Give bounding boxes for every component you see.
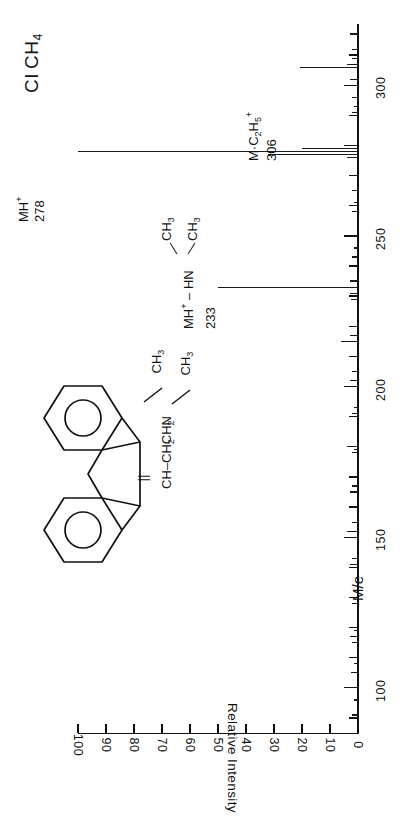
annotation-306-sub-a: 2 (253, 131, 263, 136)
mz-tick-300 (344, 85, 358, 86)
peak-mz-265 (352, 190, 358, 191)
peak-mz-291 (352, 112, 358, 113)
intensity-tick-label-60: 60 (183, 730, 197, 760)
mz-minor-tick-210 (349, 356, 358, 357)
aromatic-circle-bottom (65, 512, 101, 548)
peak-mz-96 (354, 699, 358, 700)
annotation-233-amine: HN (181, 270, 196, 289)
annotation-233-dash: – (181, 293, 196, 300)
peak-mz-117 (350, 636, 358, 637)
structure-chain-ch: CH (159, 470, 174, 489)
n-methyl-bond-a (144, 388, 162, 402)
peak-mz-270 (351, 175, 358, 176)
mz-tick-label-150: 150 (374, 517, 388, 551)
intensity-tick-label-40: 40 (239, 730, 253, 760)
intensity-tick-label-50: 50 (211, 730, 225, 760)
peak-mz-141 (350, 564, 358, 565)
structure-methyl-b-sub: 3 (185, 352, 195, 357)
peak-mz-191 (352, 413, 358, 414)
mz-tick-label-100: 100 (374, 668, 388, 702)
peak-mz-193 (354, 407, 358, 408)
peak-mz-128 (352, 603, 358, 604)
peak-mz-152 (347, 531, 358, 532)
aromatic-circle-top (65, 400, 101, 436)
peak-mz-108 (354, 663, 358, 664)
structure-methyl-a: CH3 (149, 334, 164, 374)
mz-minor-tick-310 (349, 54, 358, 55)
structure-chain-ch2-a: –CH (159, 444, 174, 470)
peak-mz-229 (351, 299, 358, 300)
intensity-tick-label-70: 70 (155, 730, 169, 760)
intensity-tick-label-90: 90 (99, 730, 113, 760)
peak-mz-130 (354, 597, 358, 598)
peak-mz-202 (350, 380, 358, 381)
intensity-tick-label-80: 80 (127, 730, 141, 760)
annotation-233-methyl-b: CH (185, 222, 200, 241)
mz-minor-tick-190 (349, 416, 358, 417)
annotation-mh-278: MH+ 278 (14, 142, 78, 222)
peak-mz-119 (354, 630, 358, 631)
benzene-ring-bottom (44, 498, 122, 562)
annotation-278-charge: + (14, 197, 24, 202)
annotation-306-charge: + (244, 112, 254, 117)
peak-mz-296 (352, 97, 358, 98)
peak-mz-258 (352, 211, 358, 212)
ring-fusion-bottom (102, 498, 140, 506)
mz-tick-label-250: 250 (374, 216, 388, 250)
intensity-tick-label-20: 20 (295, 730, 309, 760)
peak-mz-217 (350, 335, 358, 336)
annotation-306-sub-b: 5 (253, 117, 263, 122)
peak-mz-215 (341, 341, 358, 342)
annotation-leader-306 (300, 67, 345, 68)
benzene-ring-top (44, 386, 122, 450)
peak-mz-231 (350, 293, 358, 294)
mz-minor-tick-170 (349, 476, 358, 477)
mz-minor-tick-120 (349, 627, 358, 628)
intensity-tick-label-30: 30 (267, 730, 281, 760)
peak-mz-91 (352, 714, 358, 715)
annotation-233-bond-b (188, 243, 196, 255)
peak-mz-143 (352, 558, 358, 559)
peak-mz-179 (354, 449, 358, 450)
annotation-233-methyl-a: CH (159, 222, 174, 241)
intensity-tick-label-100: 100 (71, 730, 85, 760)
peak-mz-155 (352, 522, 358, 523)
intensity-tick-label-0: 0 (351, 730, 365, 760)
peak-mz-280 (344, 145, 358, 146)
mz-tick-200 (344, 386, 358, 387)
peak-mz-180 (347, 446, 358, 447)
ethylene-bridge-left (88, 450, 102, 498)
structure-methyl-b-text: CH (178, 357, 193, 376)
structure-methyl-b: CH3 (178, 336, 193, 376)
peak-mz-246 (354, 247, 358, 248)
peak-mz-167 (352, 485, 358, 486)
peak-mz-293 (354, 106, 358, 107)
peak-mz-105 (351, 672, 358, 673)
annotation-233-methyl-a-sub: 3 (166, 217, 176, 222)
structure-methyl-a-sub: 3 (156, 350, 166, 355)
peak-mz-312 (352, 49, 358, 50)
annotation-233-mz: 233 (203, 209, 219, 329)
annotation-306-mz: 306 (264, 75, 280, 161)
peak-mz-100 (347, 687, 358, 688)
annotation-m-c2h5-306: M·C2H5+ 306 (244, 75, 308, 161)
peak-mz-317 (350, 33, 358, 34)
n-methyl-bond-b (172, 390, 190, 404)
peak-mz-302 (350, 79, 358, 80)
structure-methyl-a-text: CH (149, 355, 164, 374)
annotation-306-formula-b: H (246, 122, 261, 131)
mz-minor-tick-90 (349, 717, 358, 718)
peak-mz-276 (347, 157, 358, 158)
annotation-278-mz: 278 (32, 142, 48, 222)
mz-axis-title: M/e (349, 541, 371, 601)
annotation-306-formula-a: M·C (246, 136, 261, 161)
peak-mz-309 (352, 58, 358, 59)
ring-fusion-top (102, 442, 140, 450)
mz-minor-tick-230 (349, 295, 358, 296)
mz-minor-tick-160 (349, 506, 358, 507)
structure-double-bond: || (135, 462, 150, 482)
peak-mz-165 (350, 491, 358, 492)
peak-mz-279 (302, 148, 358, 149)
annotation-233-bond-a (170, 243, 178, 255)
annotation-233-charge: + (179, 304, 189, 309)
